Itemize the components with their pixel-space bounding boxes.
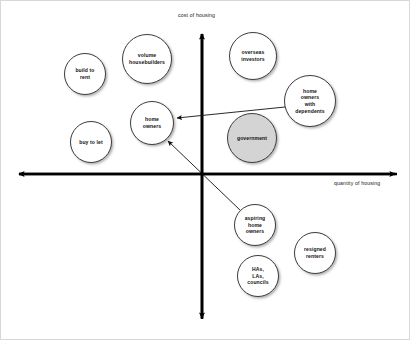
- bubble-label-overseas-investors: overseas investors: [239, 49, 267, 62]
- bubble-label-resigned-renters: resigned renters: [302, 246, 328, 259]
- cost-axis-label: cost of housing: [178, 12, 215, 18]
- bubble-label-aspiring-home-owners: aspiring home owners: [243, 215, 268, 235]
- arrow-dependents-to-home-owners: [177, 107, 285, 118]
- bubble-volume-housebuilders[interactable]: volume housebuilders: [122, 34, 172, 84]
- diagram-canvas: cost of housing quantity of housing buil…: [0, 0, 410, 340]
- axes-layer: [1, 1, 410, 340]
- bubble-aspiring-home-owners[interactable]: aspiring home owners: [234, 204, 276, 246]
- quantity-axis-label: quantity of housing: [334, 180, 380, 186]
- bubble-buy-to-let[interactable]: buy to let: [70, 121, 112, 163]
- bubble-label-home-owners: home owners: [141, 116, 163, 129]
- bubble-build-to-rent[interactable]: build to rent: [64, 53, 106, 95]
- bubble-government[interactable]: government: [227, 113, 277, 163]
- bubble-resigned-renters[interactable]: resigned renters: [294, 232, 336, 274]
- bubble-label-home-owners-with-dependents: home owners with dependents: [293, 88, 327, 115]
- bubble-label-government: government: [235, 135, 269, 142]
- bubble-home-owners-with-dependents[interactable]: home owners with dependents: [284, 75, 336, 127]
- bubble-label-build-to-rent: build to rent: [73, 67, 96, 80]
- bubble-label-volume-housebuilders: volume housebuilders: [127, 52, 167, 65]
- bubble-label-has-las-councils: HAs, LAs, councils: [245, 266, 270, 286]
- bubble-label-buy-to-let: buy to let: [77, 139, 105, 146]
- bubble-has-las-councils[interactable]: HAs, LAs, councils: [237, 255, 279, 297]
- bubble-overseas-investors[interactable]: overseas investors: [229, 32, 277, 80]
- bubble-home-owners[interactable]: home owners: [130, 101, 174, 145]
